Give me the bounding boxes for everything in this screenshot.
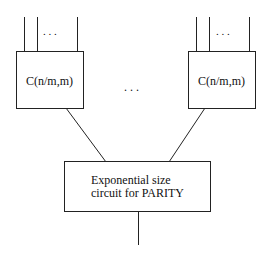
right-to-parity-wire xyxy=(169,108,205,162)
parity-circuit-label-line2: circuit for PARITY xyxy=(91,186,184,200)
middle-ellipsis: . . . xyxy=(124,80,139,94)
right-subcircuit-label: C(n/m,m) xyxy=(198,74,245,88)
left-subcircuit-label: C(n/m,m) xyxy=(26,74,73,88)
parity-circuit-label-line1: Exponential size xyxy=(91,173,171,187)
left-input-ellipsis: . . . xyxy=(43,25,57,37)
parity-circuit-diagram: . . . . . . . . . C(n/m,m) C(n/m,m) Expo… xyxy=(0,0,268,256)
right-input-ellipsis: . . . xyxy=(216,25,230,37)
left-to-parity-wire xyxy=(66,108,106,162)
